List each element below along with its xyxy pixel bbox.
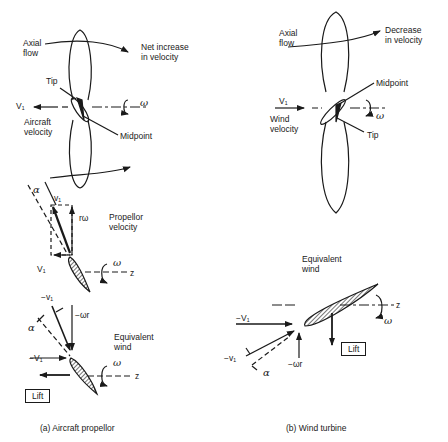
blade-a [69, 96, 92, 124]
alpha-label-b: α [263, 368, 270, 378]
tip-label-a: Tip [46, 76, 58, 86]
axial-flow-arrow-a [45, 41, 128, 52]
equivalent-wind-label-a: Equivalentwind [114, 332, 154, 352]
midpoint-label-b: Midpoint [376, 78, 408, 88]
propellor-velocity-label: Propellorvelocity [109, 212, 143, 232]
caption-a: (a) Aircraft propellor [40, 423, 115, 433]
z-axis-label-a-mid: z [130, 268, 134, 278]
decrease-label: Decreasein velocity [385, 25, 422, 45]
neg-v1-label-a: −v₁ [41, 292, 53, 302]
neg-v1-arrow-a [52, 306, 70, 350]
wind-velocity-label: Windvelocity [270, 114, 298, 134]
neg-v1-label-b: −v₁ [224, 353, 236, 363]
neg-omega-r-label-b: −ωr [288, 359, 302, 369]
midpoint-label-a: Midpoint [120, 131, 152, 141]
net-increase-label: Net increasein velocity [141, 42, 189, 62]
z-axis-label-b: z [396, 300, 400, 310]
axial-flow-arrow-b [288, 31, 380, 47]
neg-omega-r-label-a: −ωr [75, 310, 89, 320]
v1-bottom-label-a: V₁ [37, 264, 46, 274]
diagram-canvas [0, 0, 448, 442]
omega-label-a-top: ω [140, 98, 148, 108]
lift-box-a: Lift [25, 389, 50, 403]
v1-top-label-a: v₁ [54, 193, 61, 203]
resultant-arrow-a [53, 207, 70, 253]
omega-label-b-top: ω [376, 111, 384, 121]
neg-v1-arrow-b [246, 331, 294, 356]
alpha-label-a-bot: α [28, 323, 35, 333]
omega-label-a-bot: ω [113, 358, 121, 368]
aircraft-velocity-label: Aircraftvelocity [24, 117, 52, 137]
omega-label-a-mid: ω [113, 258, 121, 268]
alpha-ref-line-a [28, 185, 68, 255]
lift-box-b: Lift [341, 342, 366, 356]
neg-V1-label-b: −V₁ [236, 313, 250, 323]
equivalent-wind-label-b: Equivalentwind [302, 254, 342, 274]
v1-label-a: V₁ [16, 101, 25, 111]
alpha-label-a-mid: α [33, 185, 40, 195]
tip-label-b: Tip [367, 130, 379, 140]
caption-b: (b) Wind turbine [286, 423, 346, 433]
z-axis-label-a-bot: z [135, 371, 139, 381]
omega-label-b-bot: ω [384, 316, 392, 326]
axial-flow-label-a: Axialflow [23, 38, 41, 58]
r-omega-label: rω [79, 213, 88, 223]
axial-flow-label-b: Axialflow [279, 28, 297, 48]
v1-label-b: V₁ [279, 96, 288, 106]
airfoil-a-mid [69, 257, 90, 292]
neg-V1-label-a: −V₁ [29, 353, 43, 363]
